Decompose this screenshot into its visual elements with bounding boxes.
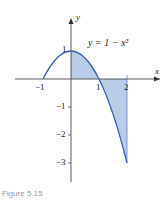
y-tick-1: 1	[62, 44, 67, 54]
y-tick-neg2: −2	[56, 129, 66, 139]
x-axis-arrow-icon	[154, 77, 160, 82]
y-axis-arrow-icon	[69, 18, 74, 24]
y-axis-label: y	[76, 12, 80, 22]
graph-canvas	[0, 0, 166, 200]
x-tick-2: 2	[124, 82, 129, 92]
x-tick-1: 1	[96, 82, 101, 92]
y-tick-neg1: −1	[56, 101, 66, 111]
y-tick-neg3: −3	[56, 157, 66, 167]
x-axis-label: x	[155, 66, 159, 76]
x-tick-neg1: −1	[35, 82, 45, 92]
shaded-area	[71, 51, 127, 163]
figure-caption: Figure 5.15	[2, 189, 42, 198]
equation-label: y = 1 − x²	[88, 37, 128, 48]
